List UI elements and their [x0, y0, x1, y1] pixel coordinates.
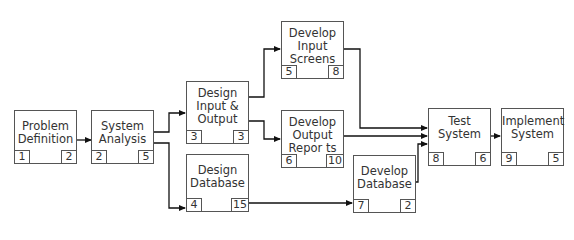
node-start-value: 2 [92, 150, 107, 163]
node-label: Implement System [502, 115, 563, 141]
node-duration-value: 15 [231, 198, 248, 211]
edge-analysis-to-design-io [154, 113, 185, 132]
node-start-value: 7 [354, 199, 369, 212]
node-label: Test System [429, 115, 490, 141]
node-label: Design Database [187, 164, 248, 190]
node-label: Develop Output Repor ts [282, 116, 343, 155]
node-develop-input-screens: Develop Input Screens 5 8 [281, 21, 344, 79]
node-start-value: 4 [187, 198, 202, 211]
node-system-analysis: System Analysis 2 5 [91, 110, 154, 164]
edge-design-io-to-input-screens [248, 49, 280, 97]
node-implement-system: Implement System 9 5 [501, 108, 564, 166]
node-design-input-output: Design Input & Output 3 3 [186, 81, 249, 144]
node-duration-value: 3 [233, 130, 248, 143]
node-start-value: 9 [502, 152, 517, 165]
node-duration-value: 5 [548, 152, 563, 165]
node-duration-value: 2 [61, 150, 76, 163]
edge-analysis-to-design-db [154, 143, 185, 208]
node-start-value: 1 [15, 150, 30, 163]
node-duration-value: 10 [326, 154, 343, 167]
node-label: Problem Definition [15, 120, 76, 146]
edge-input-screens-to-test [343, 49, 427, 128]
edge-design-io-to-output-reports [248, 121, 280, 139]
node-label: System Analysis [92, 120, 153, 146]
node-develop-output-reports: Develop Output Repor ts 6 10 [281, 110, 344, 168]
node-start-value: 8 [429, 152, 444, 165]
node-label: Develop Database [354, 165, 415, 191]
node-label: Develop Input Screens [282, 27, 343, 66]
node-label: Design Input & Output [187, 87, 248, 126]
node-problem-definition: Problem Definition 1 2 [14, 110, 77, 164]
node-duration-value: 5 [138, 150, 153, 163]
node-start-value: 3 [187, 130, 202, 143]
node-duration-value: 8 [328, 65, 343, 78]
node-duration-value: 6 [475, 152, 490, 165]
node-start-value: 6 [282, 154, 297, 167]
node-duration-value: 2 [400, 199, 415, 212]
node-start-value: 5 [282, 65, 297, 78]
node-develop-database: Develop Database 7 2 [353, 155, 416, 213]
node-design-database: Design Database 4 15 [186, 154, 249, 212]
node-test-system: Test System 8 6 [428, 108, 491, 166]
edge-develop-db-to-test [415, 144, 427, 182]
